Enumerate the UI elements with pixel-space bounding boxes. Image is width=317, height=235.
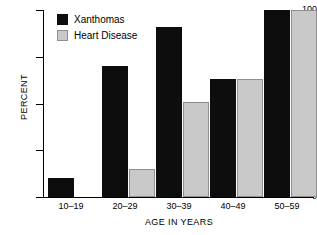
bar-chart: PERCENT 0255075100 10–1920–2930–3940–495…: [0, 0, 317, 235]
x-axis-title: AGE IN YEARS: [44, 217, 314, 227]
legend-item-heart-disease: Heart Disease: [57, 27, 137, 43]
y-axis-tick: [36, 10, 44, 11]
x-axis-tick-label: 50–59: [252, 201, 317, 211]
bar-xanthomas: [156, 27, 182, 197]
y-axis-title: PERCENT: [19, 37, 29, 157]
y-axis-tick: [36, 150, 44, 151]
bar-heart-disease: [183, 102, 209, 197]
legend-swatch-black-icon: [57, 14, 68, 25]
chart-legend: Xanthomas Heart Disease: [57, 11, 137, 43]
bar-heart-disease: [291, 10, 317, 197]
bar-group: [210, 10, 263, 197]
x-axis-line: [43, 197, 314, 198]
legend-label-heart-disease: Heart Disease: [74, 30, 137, 41]
y-axis-tick: [36, 57, 44, 58]
bar-xanthomas: [210, 79, 236, 197]
bar-group: [156, 10, 209, 197]
legend-swatch-gray-icon: [57, 30, 68, 41]
bar-xanthomas: [264, 10, 290, 197]
bar-group: [264, 10, 317, 197]
bar-xanthomas: [48, 178, 74, 197]
bar-xanthomas: [102, 66, 128, 197]
bar-heart-disease: [129, 169, 155, 197]
legend-item-xanthomas: Xanthomas: [57, 11, 137, 27]
legend-label-xanthomas: Xanthomas: [74, 14, 125, 25]
bar-heart-disease: [237, 79, 263, 197]
y-axis-tick: [36, 104, 44, 105]
